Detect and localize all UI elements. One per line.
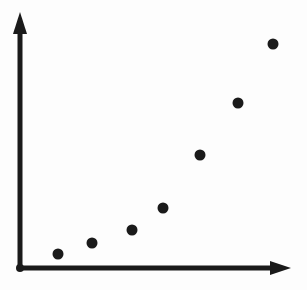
data-point-2 xyxy=(87,238,98,249)
scatter-plot-figure xyxy=(0,0,307,290)
data-point-5 xyxy=(195,150,206,161)
data-point-4 xyxy=(158,203,169,214)
data-point-7 xyxy=(268,39,279,50)
data-point-3 xyxy=(127,225,138,236)
plot-background xyxy=(0,0,307,290)
data-point-6 xyxy=(233,98,244,109)
data-point-1 xyxy=(53,249,64,260)
plot-canvas xyxy=(0,0,307,290)
origin-junction xyxy=(16,264,24,272)
